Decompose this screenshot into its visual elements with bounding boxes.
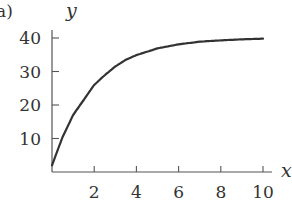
x-axis-label: x — [281, 159, 292, 181]
y-tick-label: 10 — [19, 129, 41, 149]
x-tick-label: 6 — [173, 182, 184, 202]
data-curve — [52, 39, 263, 166]
chart: a) y x 24681010203040 — [0, 0, 292, 206]
axes — [52, 30, 272, 172]
x-tick-label: 4 — [131, 182, 142, 202]
panel-label: a) — [0, 1, 13, 21]
y-tick-label: 20 — [19, 95, 41, 115]
x-tick-label: 8 — [215, 182, 226, 202]
y-axis-label: y — [65, 0, 77, 21]
x-tick-label: 10 — [252, 182, 274, 202]
x-tick-label: 2 — [89, 182, 100, 202]
ticks: 24681010203040 — [19, 28, 273, 202]
y-tick-label: 30 — [19, 62, 41, 82]
y-tick-label: 40 — [19, 28, 41, 48]
